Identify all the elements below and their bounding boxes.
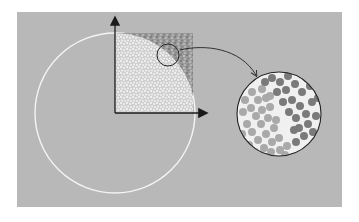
monte-carlo-diagram [0,0,359,222]
